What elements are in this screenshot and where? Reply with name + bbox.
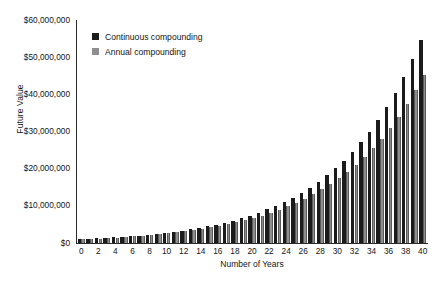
x-tick-label: 20 <box>247 246 256 256</box>
bar-annual-compounding <box>406 104 409 243</box>
bar-group <box>402 20 409 243</box>
bar-group <box>265 20 272 243</box>
x-tick-label: 34 <box>367 246 376 256</box>
x-axis-line <box>76 243 428 244</box>
bar-annual-compounding <box>363 157 366 243</box>
x-tick-label: 6 <box>130 246 135 256</box>
y-tick-label: $30,000,000 <box>24 127 70 136</box>
bar-annual-compounding <box>244 220 247 243</box>
bar-annual-compounding <box>235 222 238 243</box>
x-tick-label: 32 <box>350 246 359 256</box>
legend-item: Continuous compounding <box>92 29 262 44</box>
y-tick-label: $40,000,000 <box>24 90 70 99</box>
bar-annual-compounding <box>124 237 127 243</box>
x-tick-label: 38 <box>401 246 410 256</box>
y-tick-label: $10,000,000 <box>24 201 70 210</box>
y-tick-label: $0 <box>61 239 70 248</box>
legend-item: Annual compounding <box>92 44 262 59</box>
bar-annual-compounding <box>414 90 417 243</box>
bar-annual-compounding <box>329 184 332 243</box>
bar-annual-compounding <box>269 213 272 243</box>
bar-annual-compounding <box>107 238 110 243</box>
bar-group <box>325 20 332 243</box>
bar-annual-compounding <box>133 236 136 243</box>
bar-group <box>368 20 375 243</box>
x-axis-tick-labels: 0246810121416182022242628303234363840 <box>76 246 428 260</box>
bar-annual-compounding <box>389 128 392 243</box>
legend-label: Continuous compounding <box>105 32 202 42</box>
bar-group <box>291 20 298 243</box>
bar-annual-compounding <box>261 216 264 244</box>
bar-annual-compounding <box>346 172 349 243</box>
bar-annual-compounding <box>90 239 93 243</box>
bar-annual-compounding <box>209 227 212 243</box>
y-tick-label: $20,000,000 <box>24 164 70 173</box>
legend-swatch-icon <box>92 33 99 40</box>
x-tick-label: 2 <box>96 246 101 256</box>
x-tick-label: 10 <box>162 246 171 256</box>
bar-annual-compounding <box>141 236 144 243</box>
bar-group <box>376 20 383 243</box>
bar-annual-compounding <box>278 210 281 243</box>
x-tick-label: 18 <box>230 246 239 256</box>
bar-group <box>342 20 349 243</box>
x-tick-label: 4 <box>113 246 118 256</box>
bar-annual-compounding <box>380 139 383 243</box>
bar-annual-compounding <box>423 75 426 243</box>
x-tick-label: 24 <box>282 246 291 256</box>
bar-annual-compounding <box>99 239 102 243</box>
x-tick-label: 40 <box>418 246 427 256</box>
bar-group <box>78 20 85 243</box>
x-tick-label: 14 <box>196 246 205 256</box>
legend-swatch-icon <box>92 48 99 55</box>
chart-legend: Continuous compoundingAnnual compounding <box>92 29 262 59</box>
bar-group <box>274 20 281 243</box>
x-tick-label: 0 <box>79 246 84 256</box>
bar-group <box>411 20 418 243</box>
bar-annual-compounding <box>338 178 341 243</box>
x-tick-label: 26 <box>299 246 308 256</box>
bar-group <box>351 20 358 243</box>
bar-annual-compounding <box>320 189 323 243</box>
bar-annual-compounding <box>397 117 400 243</box>
bar-group <box>283 20 290 243</box>
bar-annual-compounding <box>355 165 358 243</box>
bar-annual-compounding <box>150 235 153 243</box>
y-tick-label: $50,000,000 <box>24 53 70 62</box>
x-tick-label: 16 <box>213 246 222 256</box>
bar-annual-compounding <box>303 199 306 243</box>
bar-annual-compounding <box>116 238 119 243</box>
bar-group <box>385 20 392 243</box>
x-tick-label: 36 <box>384 246 393 256</box>
bar-annual-compounding <box>295 203 298 243</box>
bar-annual-compounding <box>218 226 221 243</box>
chart-figure: Future Value $0$10,000,000$20,000,000$30… <box>0 0 437 285</box>
x-axis-title: Number of Years <box>76 259 428 269</box>
bar-group <box>300 20 307 243</box>
bar-group <box>359 20 366 243</box>
bar-annual-compounding <box>252 218 255 243</box>
x-tick-label: 8 <box>147 246 152 256</box>
bar-annual-compounding <box>184 231 187 243</box>
bar-group <box>394 20 401 243</box>
x-tick-label: 12 <box>179 246 188 256</box>
y-axis-tick-labels: $0$10,000,000$20,000,000$30,000,000$40,0… <box>0 0 73 285</box>
bar-annual-compounding <box>286 206 289 243</box>
bar-annual-compounding <box>312 194 315 243</box>
x-tick-label: 28 <box>316 246 325 256</box>
bar-group <box>334 20 341 243</box>
bar-group <box>317 20 324 243</box>
x-tick-label: 30 <box>333 246 342 256</box>
bar-annual-compounding <box>158 234 161 243</box>
bar-annual-compounding <box>192 230 195 243</box>
x-tick-label: 22 <box>264 246 273 256</box>
y-tick-label: $60,000,000 <box>24 16 70 25</box>
bar-annual-compounding <box>227 224 230 243</box>
bar-group <box>308 20 315 243</box>
bar-annual-compounding <box>372 148 375 243</box>
bar-annual-compounding <box>175 232 178 243</box>
bar-annual-compounding <box>201 229 204 243</box>
bar-annual-compounding <box>167 233 170 243</box>
legend-label: Annual compounding <box>105 47 186 57</box>
bar-group <box>419 20 426 243</box>
